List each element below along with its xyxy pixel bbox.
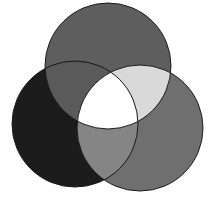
venn-diagram	[0, 0, 214, 203]
